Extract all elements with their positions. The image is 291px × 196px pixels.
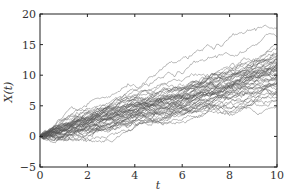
plot-frame bbox=[40, 14, 277, 167]
x-tick-label: 4 bbox=[131, 169, 138, 182]
y-tick-label: 10 bbox=[22, 69, 36, 82]
x-axis-label: t bbox=[156, 179, 161, 192]
chart: 0246810−505101520 t X(t) bbox=[0, 0, 291, 196]
sample-path bbox=[40, 44, 277, 136]
x-tick-label: 6 bbox=[179, 169, 186, 182]
y-tick-label: 5 bbox=[29, 100, 36, 113]
y-tick-label: 0 bbox=[29, 130, 36, 143]
sample-paths bbox=[40, 25, 277, 143]
x-tick-label: 0 bbox=[37, 169, 44, 182]
y-tick-label: 15 bbox=[22, 39, 36, 52]
sample-path bbox=[40, 62, 277, 138]
x-tick-label: 8 bbox=[226, 169, 233, 182]
y-tick-label: 20 bbox=[22, 8, 36, 21]
sample-path bbox=[40, 85, 277, 136]
x-tick-label: 10 bbox=[270, 169, 284, 182]
y-axis-label: X(t) bbox=[2, 82, 15, 104]
y-tick-label: −5 bbox=[20, 161, 36, 174]
x-tick-label: 2 bbox=[84, 169, 91, 182]
